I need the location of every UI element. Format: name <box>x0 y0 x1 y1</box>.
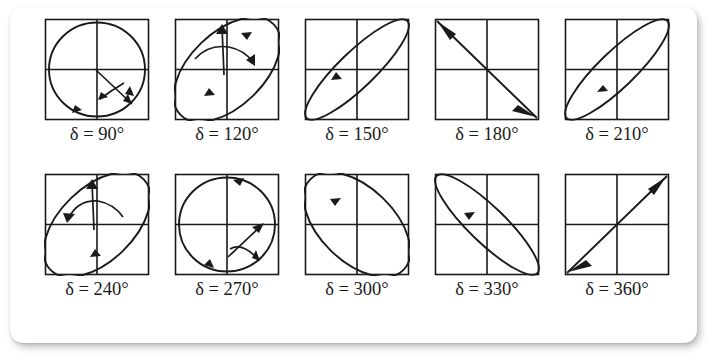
panel-delta-120: δ = 120° <box>162 18 292 173</box>
panel-label-delta-150: δ = 150° <box>325 124 389 145</box>
panel-delta-180: δ = 180° <box>422 18 552 173</box>
panel-delta-300: δ = 300° <box>292 173 422 328</box>
plot-delta-330 <box>434 173 540 276</box>
panel-label-delta-210: δ = 210° <box>585 124 649 145</box>
panel-label-delta-300: δ = 300° <box>325 279 389 300</box>
panel-label-delta-360: δ = 360° <box>585 279 649 300</box>
panel-label-delta-90: δ = 90° <box>70 124 124 145</box>
panel-label-delta-330: δ = 330° <box>455 279 519 300</box>
panel-label-delta-120: δ = 120° <box>195 124 259 145</box>
panel-label-delta-270: δ = 270° <box>195 279 259 300</box>
plot-delta-210 <box>564 18 670 121</box>
panel-grid: δ = 90° <box>32 18 682 328</box>
panel-label-delta-240: δ = 240° <box>65 279 129 300</box>
panel-row-bottom: δ = 240° <box>32 173 682 328</box>
panel-delta-330: δ = 330° <box>422 173 552 328</box>
plot-delta-270 <box>174 173 280 276</box>
panel-delta-210: δ = 210° <box>552 18 682 173</box>
plot-delta-150 <box>304 18 410 121</box>
plot-delta-300 <box>304 173 410 276</box>
panel-delta-240: δ = 240° <box>32 173 162 328</box>
panel-delta-90: δ = 90° <box>32 18 162 173</box>
plot-delta-180 <box>434 18 540 121</box>
plot-delta-240 <box>44 173 150 276</box>
plot-delta-90 <box>44 18 150 121</box>
plot-delta-120 <box>174 18 280 121</box>
panel-delta-270: δ = 270° <box>162 173 292 328</box>
panel-row-top: δ = 90° <box>32 18 682 173</box>
plot-delta-360 <box>564 173 670 276</box>
figure-card: δ = 90° <box>10 7 697 343</box>
panel-delta-360: δ = 360° <box>552 173 682 328</box>
panel-delta-150: δ = 150° <box>292 18 422 173</box>
panel-label-delta-180: δ = 180° <box>455 124 519 145</box>
